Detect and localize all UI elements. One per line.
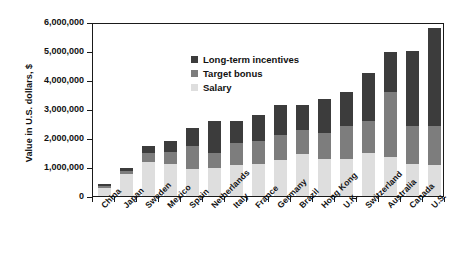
legend-item-long-term-incentives: Long-term incentives [191, 53, 361, 66]
bar-segment [274, 105, 287, 135]
bar-segment [428, 126, 441, 165]
legend-swatch-icon-target-bonus [191, 70, 198, 77]
y-axis-tick-label: 2,000,000 [44, 133, 84, 143]
stacked-bar-chart: Value in U.S. dollars, $ 01,000,0002,000… [0, 0, 459, 269]
y-axis-tick-label: 0 [79, 191, 84, 201]
bar-segment [142, 146, 155, 154]
bar-segment [142, 153, 155, 161]
bar-segment [208, 153, 221, 168]
legend-label-long-term-incentives: Long-term incentives [203, 55, 299, 65]
bar-segment [406, 51, 419, 126]
bar-group[interactable] [362, 73, 375, 196]
y-axis-tick-label: 6,000,000 [44, 17, 84, 27]
bar-segment [164, 141, 177, 152]
y-axis-tick-list: 01,000,0002,000,0003,000,0004,000,0005,0… [0, 0, 92, 269]
bar-segment [274, 135, 287, 160]
bar-segment [252, 115, 265, 141]
bar-segment [340, 92, 353, 126]
bar-segment [384, 52, 397, 92]
bar-segment [252, 141, 265, 163]
bar-group[interactable] [318, 99, 331, 196]
bar-segment [252, 164, 265, 196]
y-axis-tick-label: 5,000,000 [44, 46, 84, 56]
bar-segment [384, 92, 397, 157]
legend-label-target-bonus: Target bonus [203, 69, 262, 79]
y-axis-tick-label: 1,000,000 [44, 162, 84, 172]
legend-swatch-icon-long-term-incentives [191, 56, 198, 63]
bar-group[interactable] [428, 28, 441, 196]
chart-legend: Long-term incentives Target bonus Salary [191, 53, 361, 95]
bar-segment [318, 159, 331, 196]
bar-segment [362, 73, 375, 121]
legend-item-salary: Salary [191, 81, 361, 94]
bar-group[interactable] [406, 51, 419, 196]
bar-segment [318, 133, 331, 159]
x-axis-tick-mark [92, 197, 93, 202]
legend-swatch-icon-salary [191, 84, 198, 91]
bar-group[interactable] [208, 121, 221, 196]
bar-segment [406, 126, 419, 164]
bar-segment [296, 130, 309, 154]
bar-segment [296, 105, 309, 130]
bar-segment [340, 126, 353, 160]
bar-segment [186, 146, 199, 169]
plot-area: Long-term incentives Target bonus Salary [92, 23, 444, 197]
bar-group[interactable] [252, 115, 265, 196]
bar-series-container [93, 24, 443, 196]
legend-item-target-bonus: Target bonus [191, 67, 361, 80]
bar-segment [318, 99, 331, 132]
legend-label-salary: Salary [203, 83, 232, 93]
bar-segment [208, 121, 221, 153]
bar-segment [164, 152, 177, 164]
y-axis-tick-label: 3,000,000 [44, 104, 84, 114]
bar-segment [362, 121, 375, 152]
bar-segment [230, 121, 243, 143]
bar-segment [362, 153, 375, 196]
x-axis-label-list: ChinaJapanSwedenMexicoSpainNetherlandsIt… [92, 203, 452, 269]
bar-group[interactable] [274, 105, 287, 196]
bar-segment [230, 143, 243, 165]
y-axis-tick-label: 4,000,000 [44, 75, 84, 85]
bar-segment [428, 28, 441, 126]
bar-group[interactable] [142, 146, 155, 196]
bar-segment [186, 128, 199, 145]
